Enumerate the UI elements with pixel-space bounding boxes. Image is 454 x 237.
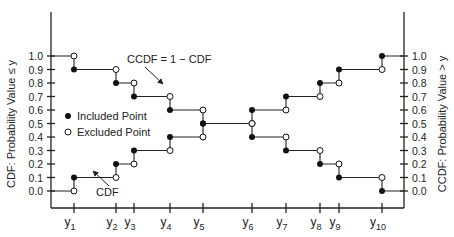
excluded-point	[317, 94, 323, 100]
excluded-point	[113, 67, 119, 73]
legend-excluded-label: Excluded Point	[77, 126, 150, 138]
x-tick-label: y2	[106, 215, 117, 232]
included-point	[336, 175, 342, 181]
included-point	[167, 107, 173, 113]
excluded-point	[167, 148, 173, 154]
x-tick-label: y7	[276, 215, 287, 232]
included-point	[113, 161, 119, 167]
excluded-point	[200, 134, 206, 140]
included-point	[200, 121, 206, 127]
excluded-point	[249, 121, 255, 127]
left-axis-label: CDF: Probability Value ≤ y	[5, 59, 17, 188]
left-y-tick-label: 0.5	[28, 118, 43, 130]
left-y-tick-label: 0.0	[28, 185, 43, 197]
left-y-tick-label: 0.7	[28, 91, 43, 103]
right-y-tick-label: 0.6	[412, 104, 427, 116]
included-point	[113, 80, 119, 86]
left-y-tick-label: 0.1	[28, 172, 43, 184]
included-point	[249, 134, 255, 140]
cdf-ccdf-figure: 0.00.00.10.10.20.20.30.30.40.40.50.50.60…	[0, 0, 454, 237]
x-tick-label: y8	[310, 215, 321, 232]
excluded-point	[131, 80, 137, 86]
included-point	[317, 80, 323, 86]
excluded-point	[71, 53, 77, 59]
curves	[51, 56, 404, 191]
x-tick-label: y4	[160, 215, 171, 232]
x-tick-label: y5	[193, 215, 204, 232]
excluded-point	[167, 94, 173, 100]
included-point	[336, 67, 342, 73]
right-y-tick-label: 0.3	[412, 145, 427, 157]
ccdf-annotation: CCDF = 1 − CDF	[127, 53, 212, 65]
excluded-point	[131, 161, 137, 167]
included-point	[379, 188, 385, 194]
included-point	[167, 134, 173, 140]
included-point	[317, 161, 323, 167]
excluded-point	[379, 175, 385, 181]
excluded-point	[283, 134, 289, 140]
right-axis-label: CCDF: Probability Value > y	[436, 55, 448, 192]
ccdf-arrow	[145, 67, 163, 84]
x-tick-label: y6	[242, 215, 253, 232]
included-point	[131, 94, 137, 100]
legend-included-marker	[65, 113, 71, 119]
right-y-tick-label: 0.8	[412, 77, 427, 89]
right-y-tick-label: 0.0	[412, 185, 427, 197]
legend-included-label: Included Point	[77, 110, 147, 122]
left-y-tick-label: 0.4	[28, 131, 43, 143]
x-tick-label: y1	[64, 215, 75, 232]
right-y-tick-label: 0.2	[412, 158, 427, 170]
x-tick-label: y3	[124, 215, 135, 232]
left-y-tick-label: 1.0	[28, 50, 43, 62]
excluded-point	[317, 148, 323, 154]
legend-excluded-marker	[65, 129, 71, 135]
tick-labels: 0.00.00.10.10.20.20.30.30.40.40.50.50.60…	[28, 50, 426, 232]
included-point	[283, 94, 289, 100]
included-point	[71, 175, 77, 181]
included-point	[283, 148, 289, 154]
right-y-tick-label: 0.4	[412, 131, 427, 143]
excluded-point	[379, 67, 385, 73]
x-tick-label: y9	[329, 215, 340, 232]
excluded-point	[336, 80, 342, 86]
cdf-annotation: CDF	[96, 186, 119, 198]
included-point	[379, 53, 385, 59]
included-point	[71, 67, 77, 73]
excluded-point	[113, 175, 119, 181]
right-y-tick-label: 1.0	[412, 50, 427, 62]
cdf-arrow	[93, 171, 109, 186]
left-y-tick-label: 0.2	[28, 158, 43, 170]
right-y-tick-label: 0.7	[412, 91, 427, 103]
x-tick-label: y10	[370, 215, 386, 232]
excluded-point	[200, 107, 206, 113]
excluded-point	[283, 107, 289, 113]
left-y-tick-label: 0.6	[28, 104, 43, 116]
right-y-tick-label: 0.5	[412, 118, 427, 130]
left-y-tick-label: 0.8	[28, 77, 43, 89]
right-y-tick-label: 0.9	[412, 64, 427, 76]
right-y-tick-label: 0.1	[412, 172, 427, 184]
left-y-tick-label: 0.9	[28, 64, 43, 76]
left-y-tick-label: 0.3	[28, 145, 43, 157]
excluded-point	[336, 161, 342, 167]
excluded-point	[71, 188, 77, 194]
included-point	[249, 107, 255, 113]
ccdf-step-curve	[51, 56, 404, 191]
included-point	[131, 148, 137, 154]
